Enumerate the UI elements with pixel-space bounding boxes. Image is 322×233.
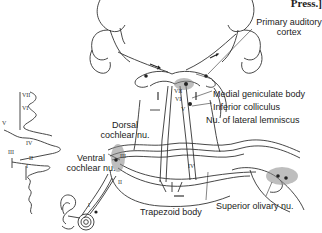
label-inferior-colliculus: Inferior colliculus [213,102,280,112]
label-primary-auditory-cortex: Primary auditory cortex [256,17,322,37]
wave-peak-iii: III [8,149,14,156]
wave-peak-vii: VII [22,92,30,99]
pathway-num-i: I [88,202,90,209]
label-superior-olivary-nu: Superior olivary nu. [216,201,294,211]
wave-peak-v: V [2,120,6,127]
pathway-num-iv: IV [188,163,194,170]
wave-peak-ii: II [29,155,33,162]
wave-peak-iv: IV [26,140,32,147]
label-ventral-cochlear-nu: Ventral cochlear nu. [56,153,126,173]
label-nu-lateral-lemniscus: Nu. of lateral lemniscus [206,115,300,125]
pathway-num-ii: II [118,179,122,186]
label-trapezoid-body: Trapezoid body [140,207,202,217]
wave-peak-i: I [26,163,28,170]
pathway-num-v: V [181,106,185,113]
wave-peak-vi: VI [22,105,28,112]
label-medial-geniculate-body: Medial geniculate body [213,89,305,99]
label-dorsal-cochlear-nu: Dorsal cochlear nu. [90,120,160,140]
pathway-num-iii: III [120,153,126,160]
pathway-num-vii: VII [174,88,182,95]
pathway-num-vi: VI [175,96,181,103]
corner-caption-fragment: Press.] [291,0,322,9]
